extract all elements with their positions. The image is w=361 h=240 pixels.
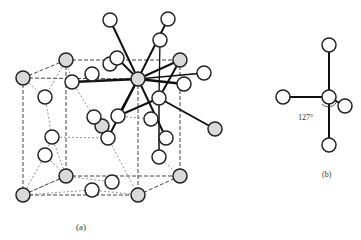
coordination-bonds — [72, 19, 215, 157]
panel-b-label: (b) — [322, 170, 331, 179]
panel-a-label: (a) — [76, 222, 86, 232]
angle-label: 127° — [298, 113, 313, 122]
panel-b-geometry — [276, 38, 352, 152]
